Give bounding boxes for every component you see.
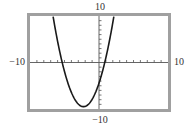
- xmin-label: −10: [9, 56, 25, 67]
- ymax-label: 10: [95, 1, 105, 12]
- graph-window: 10 −10 −10 10: [0, 0, 185, 126]
- parabola-curve: [53, 17, 114, 107]
- xmax-label: 10: [174, 56, 184, 67]
- ymin-label: −10: [92, 114, 108, 125]
